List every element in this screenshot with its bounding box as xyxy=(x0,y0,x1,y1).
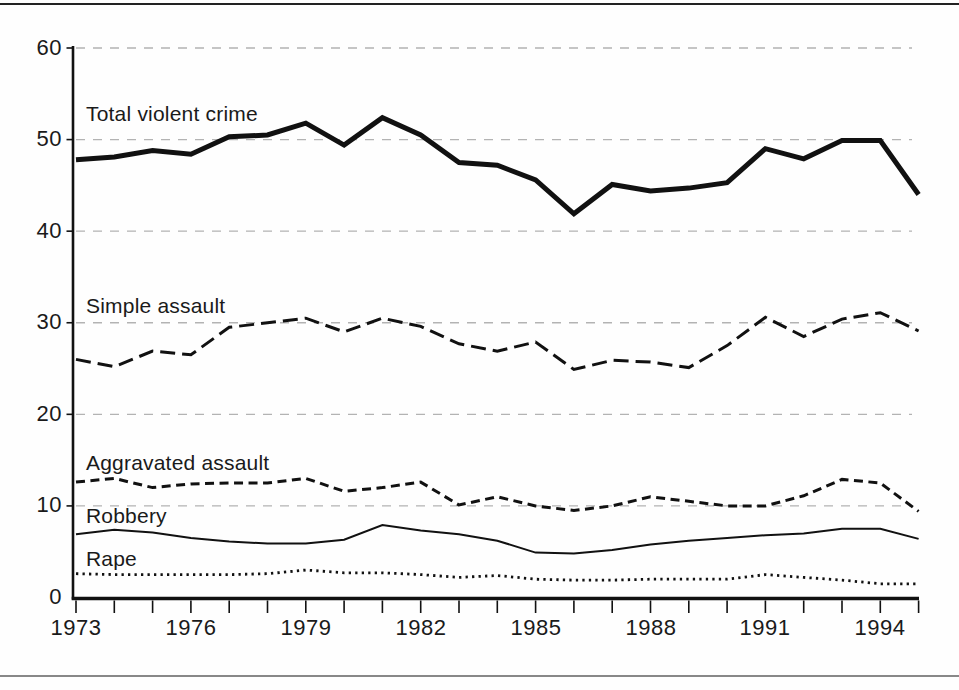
series-label-rape: Rape xyxy=(86,547,137,571)
x-tick-label-1979: 1979 xyxy=(266,616,346,640)
series-label-robbery: Robbery xyxy=(86,504,167,528)
y-tick-label-50: 50 xyxy=(0,128,62,150)
x-tick-label-1994: 1994 xyxy=(840,616,920,640)
series-line-simple-assault xyxy=(76,313,919,370)
series-label-total-violent-crime: Total violent crime xyxy=(86,102,258,126)
bottom-rule xyxy=(0,675,959,677)
x-tick-label-1991: 1991 xyxy=(725,616,805,640)
crime-rate-chart-figure: 60 50 40 30 20 10 0 1973 1976 1979 1982 … xyxy=(0,0,959,690)
series-label-aggravated-assault: Aggravated assault xyxy=(86,451,269,475)
x-tick-label-1976: 1976 xyxy=(151,616,231,640)
y-tick-label-20: 20 xyxy=(0,403,62,425)
x-tick-label-1973: 1973 xyxy=(36,616,116,640)
series-label-simple-assault: Simple assault xyxy=(86,294,225,318)
series-line-total-violent-crime xyxy=(76,118,919,214)
y-tick-label-40: 40 xyxy=(0,220,62,242)
y-tick-label-30: 30 xyxy=(0,311,62,333)
y-tick-label-10: 10 xyxy=(0,494,62,516)
y-tick-label-60: 60 xyxy=(0,37,62,59)
series-line-rape xyxy=(76,570,919,584)
series-line-robbery xyxy=(76,525,919,553)
x-tick-label-1988: 1988 xyxy=(611,616,691,640)
x-tick-label-1985: 1985 xyxy=(496,616,576,640)
y-tick-label-0: 0 xyxy=(0,586,62,608)
x-tick-label-1982: 1982 xyxy=(381,616,461,640)
